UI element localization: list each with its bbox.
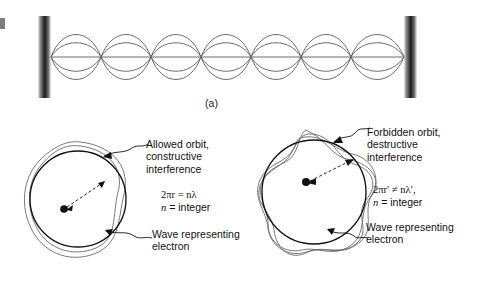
nucleus-dot [60,205,68,213]
standing-wave-graphic [0,0,483,118]
forbidden-orbit-label: Forbidden orbit, destructive interferenc… [367,126,441,163]
forbidden-wave-label-line1: Wave representing [366,221,454,233]
allowed-orbit-equation: 2πr = nλ n = integer [161,188,210,214]
allowed-orbit-label-line1: Allowed orbit, [146,138,209,150]
allowed-orbit-label: Allowed orbit, constructive interference [146,138,209,175]
integer-text: = integer [166,201,210,213]
radius-line [67,182,104,207]
forbidden-orbit-label-line1: Forbidden orbit, [367,126,441,138]
allowed-wave-label: Wave representing electron [152,228,240,253]
allowed-orbit-equation-line1: 2πr = nλ [161,188,210,201]
allowed-wave-label-line1: Wave representing [152,228,240,240]
forbidden-orbit-label-line3: interference [367,151,441,163]
panel-a-caption: (a) [205,97,218,109]
integer-text: = integer [378,196,422,208]
allowed-orbit-label-line2: constructive [146,150,209,162]
forbidden-orbit-label-line2: destructive [367,138,441,150]
panel-b-allowed-orbit: Allowed orbit, constructive interference… [0,120,243,283]
forbidden-orbit-graphic [240,120,483,283]
physics-figure: (a) Allowed orbit, con [0,0,483,283]
panel-c-forbidden-orbit: Forbidden orbit, destructive interferenc… [240,120,483,283]
allowed-orbit-label-line3: interference [146,163,209,175]
radius-line [310,160,352,181]
forbidden-wave-label-line2: electron [366,233,454,245]
orbit-circle [262,140,366,244]
panel-a-standing-wave: (a) [0,0,483,118]
forbidden-orbit-equation-line2: n = integer [373,196,422,209]
forbidden-orbit-equation: 2πr′ ≠ nλ′, n = integer [373,183,422,209]
allowed-wave-label-line2: electron [152,240,240,252]
nucleus-dot [302,178,310,186]
forbidden-orbit-equation-line1: 2πr′ ≠ nλ′, [373,183,422,196]
allowed-orbit-equation-line2: n = integer [161,201,210,214]
forbidden-wave-label: Wave representing electron [366,221,454,246]
